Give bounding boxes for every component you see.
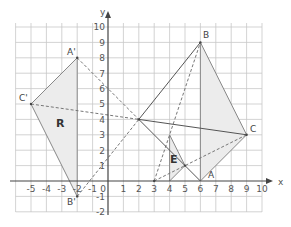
svg-text:10: 10	[256, 184, 268, 194]
svg-text:5: 5	[99, 99, 105, 109]
svg-text:6: 6	[99, 84, 105, 94]
y-axis-label: y	[100, 7, 106, 17]
svg-text:7: 7	[99, 69, 105, 79]
svg-text:7: 7	[213, 184, 219, 194]
y-axis-arrow-icon	[105, 11, 111, 18]
svg-text:-5: -5	[27, 184, 36, 194]
svg-text:-1: -1	[96, 192, 105, 202]
label-a-prime: A'	[67, 47, 76, 57]
label-e: E	[170, 153, 178, 166]
svg-text:9: 9	[99, 38, 105, 48]
label-b-prime: B'	[67, 197, 76, 207]
svg-text:-4: -4	[42, 184, 51, 194]
svg-text:9: 9	[244, 184, 250, 194]
svg-text:8: 8	[99, 53, 105, 63]
svg-text:4: 4	[99, 115, 105, 125]
x-axis-label: x	[278, 177, 284, 187]
svg-text:-2: -2	[96, 207, 105, 217]
triangle-abc	[200, 42, 246, 181]
coordinate-diagram: x y -5 -4 -3 -2 -1 0 1 2 3 4 5 6 7 8 9 1…	[0, 0, 291, 227]
svg-text:1: 1	[99, 161, 105, 171]
svg-text:8: 8	[228, 184, 234, 194]
svg-text:4: 4	[167, 184, 173, 194]
svg-text:5: 5	[182, 184, 188, 194]
svg-text:2: 2	[136, 184, 142, 194]
triangle-r	[31, 58, 77, 197]
label-c: C	[250, 124, 256, 134]
label-b: B	[203, 30, 209, 40]
svg-text:1: 1	[121, 184, 127, 194]
svg-text:2: 2	[99, 146, 105, 156]
svg-text:6: 6	[198, 184, 204, 194]
x-tick-labels: -5 -4 -3 -2 -1 0 1 2 3 4 5 6 7 8 9 10	[27, 184, 268, 194]
svg-text:10: 10	[94, 22, 106, 32]
label-a: A	[208, 170, 215, 180]
svg-text:3: 3	[99, 130, 105, 140]
svg-text:3: 3	[151, 184, 157, 194]
svg-text:-2: -2	[73, 184, 82, 194]
svg-text:-3: -3	[57, 184, 66, 194]
label-c-prime: C'	[19, 93, 28, 103]
label-r: R	[56, 117, 65, 130]
